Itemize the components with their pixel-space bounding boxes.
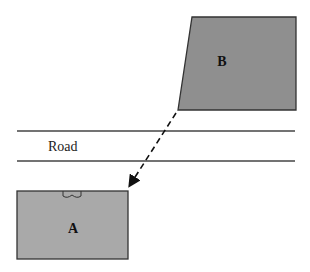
road-label: Road [48, 139, 78, 154]
road: Road [17, 131, 295, 161]
shape-a: A [17, 191, 128, 259]
dashed-arrow [130, 113, 176, 185]
shape-b-label: B [217, 54, 226, 69]
shape-b: B [178, 17, 296, 110]
diagram-canvas: B Road A [0, 0, 310, 272]
shape-a-label: A [68, 221, 79, 236]
